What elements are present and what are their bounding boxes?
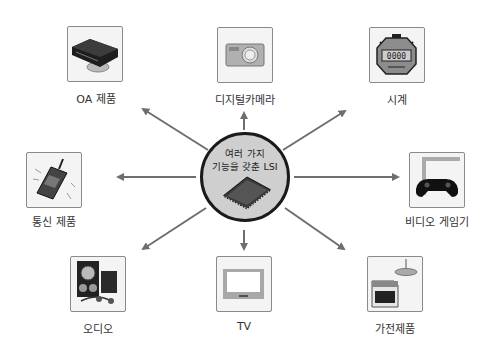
- label-tv: TV: [194, 320, 294, 333]
- node-clock: 0000: [369, 27, 425, 83]
- stove-lamp-icon: [368, 257, 421, 310]
- stopwatch-icon: 0000: [370, 28, 423, 81]
- node-camera: [217, 27, 273, 83]
- gamepad-icon: [410, 153, 463, 206]
- lsi-hub: 여러 가지 기능을 갖춘 LSI: [200, 132, 290, 222]
- arrow-to-audio: [143, 208, 206, 249]
- svg-text:0000: 0000: [387, 52, 406, 61]
- node-oa: [67, 26, 123, 82]
- hub-title-line1: 여러 가지: [203, 148, 287, 160]
- node-audio: [70, 256, 126, 312]
- node-appliance: [367, 256, 423, 312]
- speakers-icon: [71, 257, 124, 310]
- lsi-chip-icon: [221, 175, 273, 211]
- label-audio: 오디오: [48, 320, 148, 336]
- label-oa: OA 제품: [46, 90, 146, 106]
- label-game: 비디오 게임기: [387, 213, 487, 229]
- hub-title-line2: 기능을 갖춘 LSI: [203, 161, 287, 173]
- label-comm: 통신 제품: [4, 213, 104, 229]
- label-appliance: 가전제품: [345, 320, 445, 336]
- mobile-phone-icon: [27, 153, 80, 206]
- vcr-player-icon: [68, 27, 121, 80]
- label-camera: 디지털카메라: [195, 91, 295, 107]
- node-tv: [216, 256, 272, 312]
- arrow-to-oa: [143, 109, 208, 150]
- digital-camera-icon: [218, 28, 271, 81]
- arrow-to-appliance: [285, 208, 344, 249]
- television-icon: [217, 257, 270, 310]
- node-game: [409, 152, 465, 208]
- node-comm: [26, 152, 82, 208]
- arrow-to-clock: [283, 111, 345, 150]
- label-clock: 시계: [347, 91, 447, 107]
